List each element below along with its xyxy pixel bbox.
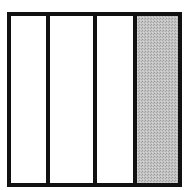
fraction-square [7, 12, 182, 187]
part-1 [9, 14, 49, 185]
part-2 [49, 14, 95, 185]
part-3 [95, 14, 135, 185]
fraction-diagram [7, 12, 182, 187]
part-4-shaded [135, 14, 180, 185]
